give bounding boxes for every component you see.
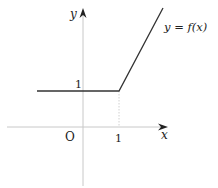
y-axis-label: y [69, 7, 77, 21]
tick-y-label: 1 [75, 78, 82, 91]
function-curve [37, 8, 163, 91]
function-label: y = f(x) [163, 20, 207, 34]
tick-x-label: 1 [115, 132, 122, 145]
x-axis-label: x [161, 128, 168, 142]
function-graph: y x O 1 1 y = f(x) [0, 0, 218, 188]
origin-label: O [65, 130, 75, 144]
